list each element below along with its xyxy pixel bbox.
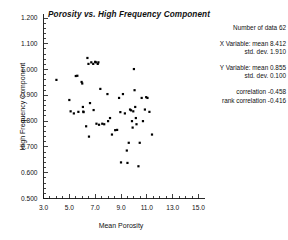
x-axis-label: Mean Porosity (43, 222, 199, 229)
data-point (77, 111, 79, 113)
data-point (95, 61, 97, 63)
data-point (68, 99, 70, 101)
data-point (107, 120, 109, 122)
data-point (90, 61, 92, 63)
data-point (85, 125, 87, 127)
y-axis-tick-label: 1.000 (8, 66, 38, 73)
y-axis-label: High Frequency Component (19, 42, 26, 172)
data-point (93, 109, 95, 111)
stat-x-std-dev: std. dev. 1.910 (198, 48, 286, 57)
data-point (132, 110, 134, 112)
x-axis-tick-label: 3.0 (32, 204, 56, 211)
statistics-panel: Number of data 62 X Variable: mean 8.412… (198, 24, 286, 112)
chart-title: Porosity vs. High Frequency Component (48, 10, 210, 19)
stat-y-std-dev: std. dev. 0.100 (198, 72, 286, 81)
data-point (92, 63, 94, 65)
data-point (114, 129, 116, 131)
data-point (99, 88, 101, 90)
data-point (126, 162, 128, 164)
x-axis-tick-label: 7.0 (83, 204, 107, 211)
data-point (124, 112, 126, 114)
data-point (101, 123, 103, 125)
data-point (133, 68, 135, 70)
stat-group-y-variable: Y Variable: mean 0.855 std. dev. 0.100 (198, 64, 286, 81)
y-axis-tick-label: 0.800 (8, 117, 38, 124)
data-point (55, 79, 57, 81)
stat-number-of-data: Number of data 62 (198, 24, 286, 33)
data-point (131, 120, 133, 122)
y-axis-tick-label: 0.700 (8, 143, 38, 150)
stat-group-count: Number of data 62 (198, 24, 286, 33)
data-point (132, 126, 134, 128)
data-point (87, 63, 89, 65)
data-point (135, 117, 137, 119)
data-point (88, 136, 90, 138)
data-point (142, 120, 144, 122)
data-point (81, 82, 83, 84)
data-point (119, 111, 121, 113)
y-axis-tick-label: 0.500 (8, 195, 38, 202)
stat-group-correlation: correlation -0.458 rank correlation -0.4… (198, 88, 286, 105)
stat-x-mean: X Variable: mean 8.412 (198, 40, 286, 49)
data-point-series (55, 57, 153, 168)
data-point (133, 89, 135, 91)
data-point (126, 149, 128, 151)
data-point (118, 97, 120, 99)
data-point (116, 129, 118, 131)
data-point (146, 97, 148, 99)
data-point (97, 61, 99, 63)
data-point (109, 117, 111, 119)
data-point (128, 142, 130, 144)
data-point (106, 93, 108, 95)
data-point (139, 142, 141, 144)
data-point (82, 106, 84, 108)
data-point (141, 97, 143, 99)
data-point (98, 124, 100, 126)
y-axis-tick-label: 1.200 (8, 14, 38, 21)
x-axis-tick-label: 9.0 (109, 204, 133, 211)
stat-y-mean: Y Variable: mean 0.855 (198, 64, 286, 73)
y-axis-tick-label: 1.100 (8, 40, 38, 47)
data-point (86, 57, 88, 59)
x-axis-tick-label: 5.0 (57, 204, 81, 211)
data-point (111, 133, 113, 135)
stat-correlation: correlation -0.458 (198, 88, 286, 97)
data-point (135, 123, 137, 125)
data-point (76, 75, 78, 77)
stat-rank-correlation: rank correlation -0.416 (198, 97, 286, 106)
data-point (120, 161, 122, 163)
x-axis-tick-label: 13.0 (161, 204, 185, 211)
data-point (73, 112, 75, 114)
scatter-plot-figure: Porosity vs. High Frequency Component Hi… (0, 0, 288, 240)
data-point (70, 110, 72, 112)
y-axis-tick-label: 0.600 (8, 169, 38, 176)
data-point (144, 108, 146, 110)
data-point (130, 109, 132, 111)
data-point (151, 133, 153, 135)
x-axis-tick-label: 15.0 (187, 204, 211, 211)
data-point (89, 102, 91, 104)
data-point (134, 106, 136, 108)
data-point (95, 123, 97, 125)
data-point (103, 123, 105, 125)
data-point (82, 111, 84, 113)
y-axis-tick-label: 0.900 (8, 91, 38, 98)
data-point (148, 111, 150, 113)
stat-group-x-variable: X Variable: mean 8.412 std. dev. 1.910 (198, 40, 286, 57)
data-point (122, 93, 124, 95)
x-axis-tick-label: 11.0 (135, 204, 159, 211)
data-point (137, 165, 139, 167)
